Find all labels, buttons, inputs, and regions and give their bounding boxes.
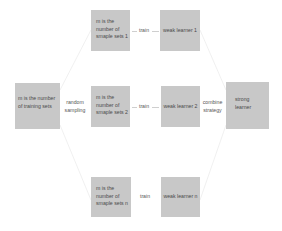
- sample-set-1-line2: number of: [96, 26, 130, 34]
- connector-1b: [152, 31, 159, 32]
- weak-learner-1-text: weak learner 1: [163, 27, 197, 35]
- training-sets-text: m is the number of training sets: [18, 95, 55, 109]
- weak-learner-n-box: weak learner n: [161, 177, 200, 217]
- train-label-2: train: [137, 103, 151, 111]
- sample-set-1-box: m is the number of smaple sets 1: [91, 10, 130, 51]
- weak-learner-2-box: weak learner 2: [161, 86, 200, 127]
- weak-learner-n-text: weak learner n: [163, 193, 197, 201]
- random-sampling-line1: random: [63, 99, 87, 107]
- sample-set-2-line1: m is the: [96, 94, 130, 102]
- training-sets-box: m is the number of training sets: [15, 83, 60, 129]
- sample-set-2-line2: number of: [96, 102, 130, 110]
- combine-strategy-label: combine strategy: [201, 99, 224, 114]
- weak-learner-1-box: weak learner 1: [160, 10, 200, 51]
- combine-strategy-line1: combine: [201, 99, 224, 107]
- sample-set-n-line3: smaple sets n: [96, 200, 131, 208]
- connector-2b: [152, 107, 159, 108]
- strong-learner-box: strong learner: [226, 82, 269, 129]
- weak-learner-2-text: weak learner 2: [163, 103, 197, 111]
- sample-set-2-box: m is the number of smaple sets 2: [91, 86, 130, 127]
- combine-strategy-line2: strategy: [201, 107, 224, 115]
- sample-set-1-line3: smaple sets 1: [96, 33, 130, 41]
- sample-set-n-line2: number of: [96, 193, 131, 201]
- sample-set-1-line1: m is the: [96, 18, 130, 26]
- sample-set-2-line3: smaple sets 2: [96, 109, 130, 117]
- train-label-n: train: [138, 193, 152, 201]
- sample-set-n-line1: m is the: [96, 185, 131, 193]
- strong-learner-line2: learner: [235, 104, 269, 112]
- sample-set-n-box: m is the number of smaple sets n: [91, 177, 131, 217]
- random-sampling-line2: sampling: [63, 107, 87, 115]
- random-sampling-label: random sampling: [63, 99, 87, 114]
- train-label-1: train: [137, 27, 151, 35]
- strong-learner-line1: strong: [235, 96, 269, 104]
